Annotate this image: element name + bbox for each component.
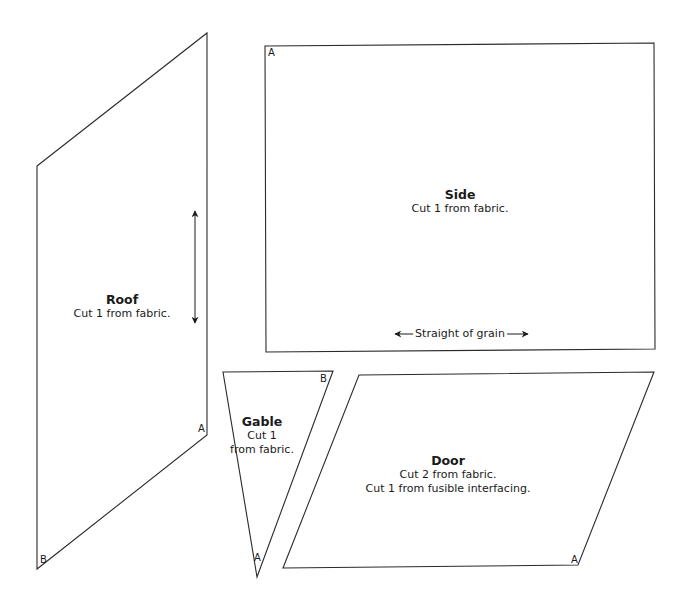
- roof-instruction: Cut 1 from fabric.: [74, 307, 171, 321]
- side-label: Side Cut 1 from fabric.: [412, 187, 509, 216]
- gable-corner-b: B: [320, 374, 327, 384]
- side-grain-label: Straight of grain: [413, 328, 507, 340]
- side-instruction: Cut 1 from fabric.: [412, 202, 509, 216]
- side-title: Side: [412, 187, 509, 202]
- roof-title: Roof: [74, 292, 171, 307]
- door-corner-a: A: [571, 555, 578, 565]
- door-instruction-1: Cut 2 from fabric.: [366, 468, 531, 482]
- roof-corner-a: A: [198, 424, 205, 434]
- door-instruction-2: Cut 1 from fusible interfacing.: [366, 482, 531, 496]
- gable-label: Gable Cut 1 from fabric.: [230, 414, 294, 457]
- gable-piece-outline: [223, 371, 333, 577]
- roof-label: Roof Cut 1 from fabric.: [74, 292, 171, 321]
- gable-corner-a: A: [254, 553, 261, 563]
- door-label: Door Cut 2 from fabric. Cut 1 from fusib…: [366, 453, 531, 496]
- side-corner-a: A: [268, 48, 275, 58]
- gable-title: Gable: [230, 414, 294, 429]
- roof-corner-b: B: [40, 555, 47, 565]
- gable-instruction-2: from fabric.: [230, 443, 294, 457]
- door-title: Door: [366, 453, 531, 468]
- gable-instruction-1: Cut 1: [230, 429, 294, 443]
